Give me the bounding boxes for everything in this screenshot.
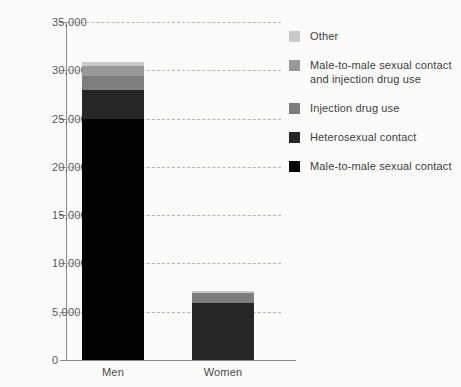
legend-item[interactable]: Heterosexual contact <box>289 130 459 144</box>
x-axis-label-men: Men <box>82 366 144 378</box>
bar-segment[interactable] <box>82 66 144 76</box>
legend-item[interactable]: Male-to-male sexual contact and injectio… <box>289 58 459 86</box>
legend-item-label: Other <box>310 29 338 43</box>
legend-swatch-icon <box>289 132 300 143</box>
legend-item[interactable]: Other <box>289 29 459 43</box>
bar-group-men[interactable] <box>82 22 144 360</box>
bar-segment[interactable] <box>192 303 254 360</box>
bar-segment[interactable] <box>192 293 254 303</box>
bar-group-women[interactable] <box>192 22 254 360</box>
bar-stack <box>82 62 144 360</box>
bar-segment[interactable] <box>82 119 144 360</box>
bar-segment[interactable] <box>82 76 144 90</box>
bar-segment[interactable] <box>82 90 144 119</box>
legend-swatch-icon <box>289 60 300 71</box>
x-axis-label-women: Women <box>192 366 254 378</box>
legend-item[interactable]: Male-to-male sexual contact <box>289 159 459 173</box>
plot-area: 05,00010,00015,00020,00025,00030,00035,0… <box>66 22 281 360</box>
x-axis-line <box>66 360 296 361</box>
legend-swatch-icon <box>289 103 300 114</box>
legend-item-label: Male-to-male sexual contact <box>310 159 452 173</box>
chart-legend: OtherMale-to-male sexual contact and inj… <box>289 29 459 188</box>
legend-swatch-icon <box>289 31 300 42</box>
tick-mark <box>60 360 66 361</box>
legend-swatch-icon <box>289 161 300 172</box>
legend-item-label: Male-to-male sexual contact and injectio… <box>310 58 459 86</box>
stacked-bar-chart: 05,00010,00015,00020,00025,00030,00035,0… <box>0 0 461 387</box>
legend-item-label: Heterosexual contact <box>310 130 416 144</box>
legend-item-label: Injection drug use <box>310 101 400 115</box>
bar-stack <box>192 291 254 360</box>
legend-item[interactable]: Injection drug use <box>289 101 459 115</box>
